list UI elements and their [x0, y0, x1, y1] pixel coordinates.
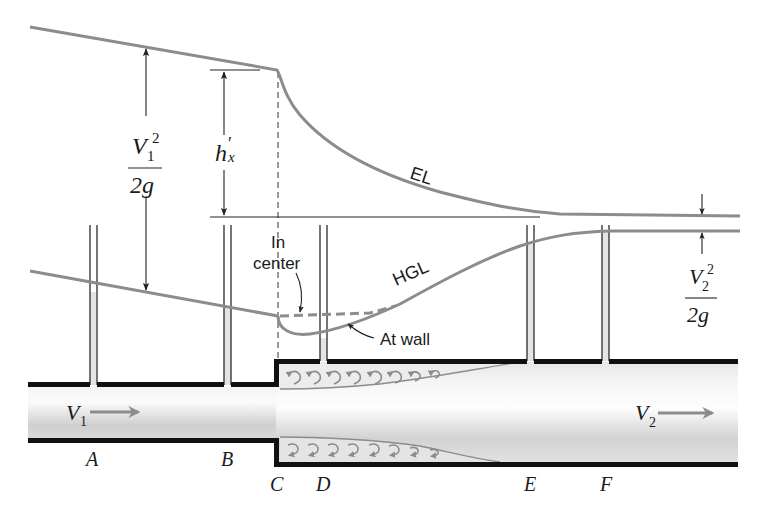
station-c-label: C	[270, 473, 284, 495]
piezometer-f	[602, 225, 609, 361]
large-pipe-top-wall-1	[274, 359, 320, 364]
head-loss-label: h ′ x	[215, 134, 235, 166]
at-wall-label: At wall	[380, 330, 430, 349]
v2-velocity-head-label: V 2 2 2g	[685, 262, 717, 327]
in-center-leader	[296, 273, 302, 312]
v1-velocity-head-label: V 1 2 2g	[128, 130, 162, 198]
svg-text:1: 1	[80, 414, 87, 429]
svg-text:2: 2	[707, 262, 714, 277]
station-f-label: F	[599, 473, 613, 495]
hgl-label: HGL	[389, 256, 431, 289]
piezometer-d	[320, 225, 327, 361]
in-center-label-line1: In	[271, 233, 285, 252]
hgl-upstream	[30, 271, 278, 316]
large-pipe-top-wall-2	[327, 359, 527, 364]
small-pipe-top-wall-2	[97, 382, 224, 387]
small-pipe-top-wall-3	[231, 382, 279, 387]
hgl-at-wall	[278, 231, 740, 334]
large-pipe-top-wall-3	[534, 359, 602, 364]
svg-text:2: 2	[152, 130, 160, 146]
svg-text:2g: 2g	[130, 172, 154, 198]
expansion-step-bottom	[274, 438, 279, 466]
station-e-label: E	[523, 473, 536, 495]
large-pipe-top-wall-4	[609, 359, 738, 364]
small-pipe-top-wall-1	[28, 382, 90, 387]
sudden-expansion-diagram: V 1 2 2g h ′ x V 2 2 2g EL HGL In center…	[0, 0, 765, 519]
large-pipe-bottom-wall	[274, 462, 738, 467]
svg-text:x: x	[227, 149, 235, 165]
piezometer-a	[90, 225, 97, 385]
svg-text:2: 2	[702, 279, 709, 294]
svg-text:h: h	[215, 140, 227, 166]
svg-text:1: 1	[147, 148, 155, 164]
station-b-label: B	[221, 448, 233, 470]
in-center-label-line2: center	[253, 254, 301, 273]
piezometer-e	[527, 225, 534, 361]
station-d-label: D	[315, 473, 331, 495]
svg-text:2g: 2g	[687, 302, 709, 327]
svg-text:2: 2	[649, 415, 656, 430]
station-a-label: A	[84, 448, 99, 470]
small-pipe-bottom-wall	[28, 438, 279, 443]
at-wall-leader	[348, 324, 374, 338]
